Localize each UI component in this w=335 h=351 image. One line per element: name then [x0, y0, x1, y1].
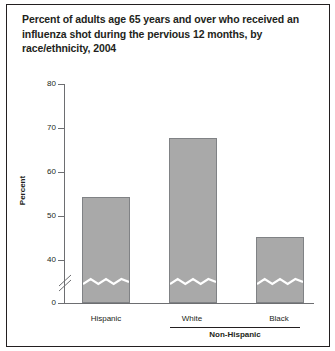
y-tick-label-70-wrap: 70: [26, 124, 56, 132]
y-tick-label-40-wrap: 40: [26, 256, 56, 264]
y-tick-label-50: 50: [30, 212, 56, 220]
axis-break-icon: [57, 270, 73, 296]
x-label-hispanic: Hispanic: [74, 314, 138, 324]
group-bracket-rule: [170, 327, 300, 328]
y-tick-label-60: 60: [30, 168, 56, 176]
bar-white[interactable]: [169, 138, 217, 303]
bar-hispanic[interactable]: [82, 197, 130, 303]
y-tick-60: [58, 172, 64, 173]
y-tick-50: [58, 216, 64, 217]
y-axis-title: Percent: [18, 161, 27, 221]
plot-area: 80 70 60 50 40 0 Percent: [0, 0, 335, 351]
group-label-non-hispanic: Non-Hispanic: [170, 330, 300, 339]
bar-break-icon-hispanic: [83, 277, 129, 287]
y-tick-label-80: 80: [30, 80, 56, 88]
bar-break-icon-white: [170, 277, 216, 287]
y-tick-0: [58, 303, 64, 304]
x-axis-line: [64, 303, 314, 304]
y-tick-70: [58, 128, 64, 129]
x-label-black: Black: [247, 314, 311, 324]
y-tick-label-50-wrap: 50: [26, 212, 56, 220]
bar-black[interactable]: [256, 237, 304, 303]
y-tick-label-40: 40: [30, 256, 56, 264]
y-tick-40: [58, 260, 64, 261]
y-tick-80: [58, 84, 64, 85]
y-tick-label-0: 0: [30, 299, 56, 307]
y-tick-label-70: 70: [30, 124, 56, 132]
y-tick-label-80-wrap: 80: [26, 80, 56, 88]
chart-figure: Percent of adults age 65 years and over …: [0, 0, 335, 351]
y-tick-label-0-wrap: 0: [26, 299, 56, 307]
y-tick-label-60-wrap: 60: [26, 168, 56, 176]
x-label-white: White: [160, 314, 224, 324]
bar-break-icon-black: [257, 277, 303, 287]
